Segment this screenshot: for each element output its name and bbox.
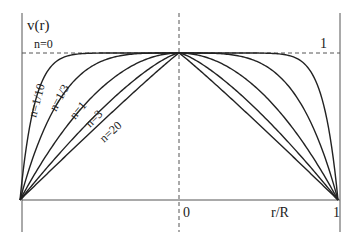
y-tick-1: 1 [320, 36, 327, 51]
velocity-profile-chart: v(r) n=0 1 0 r/R 1 n=1/10 n=1/3 n=1 n=3 … [0, 0, 357, 242]
x-tick-1: 1 [333, 205, 340, 220]
x-axis-label: r/R [271, 205, 290, 220]
label-n-1-10: n=1/10 [25, 82, 47, 119]
label-n-1-3: n=1/3 [46, 82, 72, 113]
x-tick-0: 0 [183, 205, 190, 220]
y-axis-label: v(r) [27, 17, 50, 34]
label-n0: n=0 [34, 37, 53, 51]
